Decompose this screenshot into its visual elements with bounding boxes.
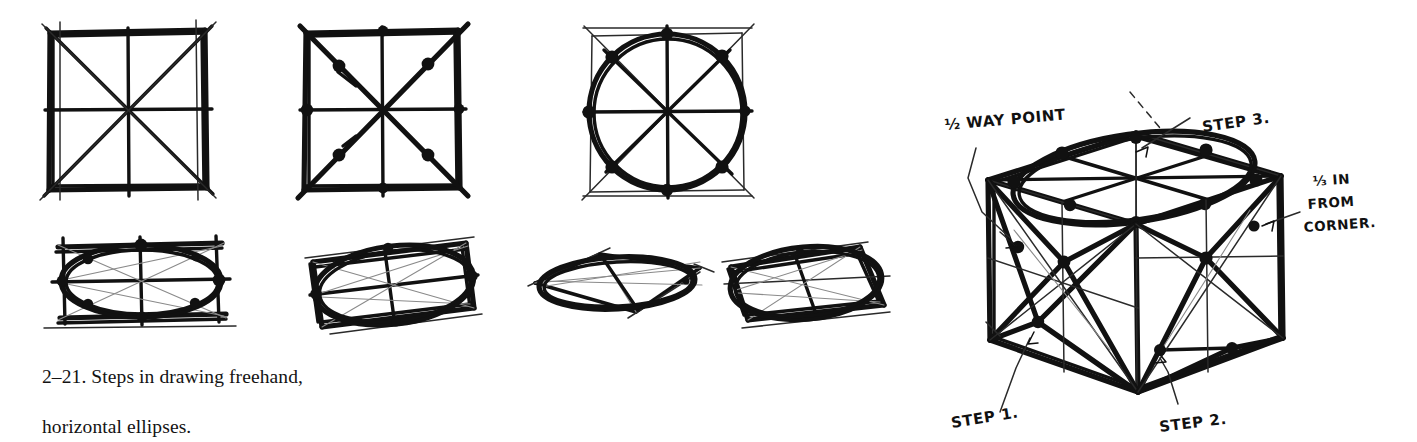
sketch-ellipse-1-flat (44, 236, 236, 328)
construction-point (582, 105, 595, 118)
construction-point (333, 149, 346, 162)
construction-point (739, 105, 750, 116)
construction-point (1055, 146, 1068, 159)
figure-caption: 2–21. Steps in drawing freehand, horizon… (42, 339, 442, 442)
construction-point (391, 317, 400, 326)
annotation-third-in-line-3: CORNER. (1303, 214, 1376, 235)
construction-point (213, 274, 226, 287)
construction-point (1249, 173, 1262, 186)
sketch-step-3-circle (582, 24, 754, 200)
construction-point (466, 270, 478, 282)
construction-point (661, 184, 673, 196)
construction-point (1058, 256, 1071, 269)
construction-point (422, 58, 435, 71)
sketch-ellipse-3-narrow (528, 248, 714, 318)
annotation-step-3: STEP 3. (1201, 109, 1271, 136)
annotation-step-3-label: STEP 3. (1201, 109, 1271, 136)
figure-caption-line-1: 2–21. Steps in drawing freehand, (42, 364, 442, 389)
construction-point (422, 149, 435, 162)
annotation-step-2-label: STEP 2. (1158, 410, 1228, 436)
construction-point (301, 104, 313, 116)
annotation-step-2: STEP 2. (1158, 410, 1228, 436)
construction-point (378, 26, 389, 37)
sketch-ellipse-4-angled (722, 241, 890, 328)
construction-point (454, 104, 465, 115)
construction-point (83, 254, 93, 264)
isometric-cube: ½ WAY POINT STEP 3. ⅓ IN FROM CORNER. ST… (944, 92, 1377, 436)
construction-point (1007, 175, 1020, 188)
annotation-third-in-from-corner: ⅓ IN FROM CORNER. (1303, 170, 1376, 235)
construction-point (1199, 198, 1211, 210)
construction-point (57, 276, 68, 287)
construction-point (715, 160, 728, 173)
construction-point (192, 253, 201, 262)
sketch-step-1-square (40, 20, 216, 200)
construction-point (661, 28, 673, 40)
construction-point (135, 239, 148, 252)
annotation-step-1-label: STEP 1. (950, 404, 1020, 432)
construction-point (378, 183, 389, 194)
construction-point (333, 60, 346, 73)
construction-point (605, 160, 618, 173)
construction-point (137, 312, 148, 323)
construction-point (796, 248, 804, 256)
annotation-step-1: STEP 1. (950, 404, 1020, 432)
construction-point (682, 277, 689, 284)
construction-point (1199, 143, 1212, 156)
construction-point (1248, 220, 1259, 231)
construction-point (1032, 316, 1044, 328)
right-face-construction (1136, 176, 1283, 392)
annotation-half-way-point: ½ WAY POINT (944, 105, 1067, 134)
construction-point (190, 298, 200, 308)
figure-caption-line-2: horizontal ellipses. (42, 414, 442, 439)
construction-point (83, 299, 93, 309)
annotation-third-in-line-2: FROM (1307, 193, 1355, 212)
annotation-third-in-line-1: ⅓ IN (1312, 170, 1350, 189)
construction-point (1130, 132, 1142, 144)
construction-point (1226, 342, 1238, 354)
annotation-half-way-point-label: ½ WAY POINT (944, 105, 1067, 134)
construction-point (1199, 251, 1212, 264)
sketch-step-2-eight-points (298, 24, 468, 198)
figure-2-21: ½ WAY POINT STEP 3. ⅓ IN FROM CORNER. ST… (0, 0, 1417, 442)
construction-point (605, 50, 618, 63)
construction-point (715, 49, 728, 62)
construction-point (383, 243, 393, 253)
construction-point (310, 288, 322, 300)
construction-point (1064, 199, 1076, 211)
sketch-ellipse-2-tilted (305, 237, 482, 334)
